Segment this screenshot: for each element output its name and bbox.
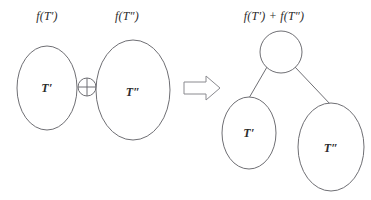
left-operand-function-label: f(T′) bbox=[36, 10, 58, 22]
tree-edge-left bbox=[249, 67, 267, 98]
diagram-canvas: f(T′) T′ f(T″) T″ f(T′) + f(T″) T′ T″ bbox=[0, 0, 371, 200]
result-root-circle bbox=[260, 31, 302, 73]
right-operand-node-label: T″ bbox=[126, 86, 141, 98]
left-operand-node-label: T′ bbox=[41, 82, 52, 94]
diagram-vector-layer bbox=[0, 0, 371, 200]
result-function-label: f(T′) + f(T″) bbox=[244, 10, 304, 22]
tree-edge-right bbox=[295, 67, 331, 105]
result-left-child-label: T′ bbox=[243, 127, 254, 139]
right-operand-function-label: f(T″) bbox=[115, 10, 139, 22]
hollow-right-arrow-icon bbox=[184, 76, 220, 100]
circled-plus-icon bbox=[78, 78, 96, 96]
result-right-child-label: T″ bbox=[324, 142, 339, 154]
